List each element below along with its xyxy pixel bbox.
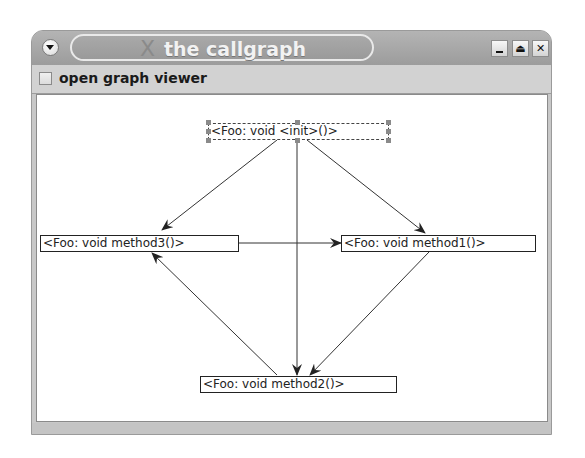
- minimize-button[interactable]: [491, 40, 508, 57]
- edge-method2-method3: [152, 253, 277, 375]
- toolbar: open graph viewer: [32, 65, 551, 94]
- node-label: <Foo: void <init>()>: [211, 124, 338, 138]
- window-title: the callgraph: [164, 38, 306, 60]
- edge-method1-method2: [310, 252, 429, 375]
- window-menu-button[interactable]: [42, 39, 59, 56]
- graph-canvas[interactable]: <Foo: void <init>()> <Foo: void method3(…: [36, 94, 548, 422]
- close-icon: ✕: [536, 42, 545, 55]
- selection-handle[interactable]: [206, 120, 211, 125]
- edge-init-method1: [307, 140, 425, 233]
- graph-node-method3[interactable]: <Foo: void method3()>: [40, 235, 239, 252]
- maximize-button[interactable]: ⏏: [512, 40, 529, 57]
- title-bar[interactable]: X the callgraph ⏏ ✕: [32, 31, 551, 65]
- title-pill: X the callgraph: [70, 34, 374, 61]
- node-label: <Foo: void method2()>: [203, 377, 345, 391]
- close-button[interactable]: ✕: [532, 40, 549, 57]
- open-graph-viewer-checkbox[interactable]: [39, 72, 52, 85]
- selection-handle[interactable]: [386, 120, 391, 125]
- status-bar: [32, 423, 551, 435]
- open-graph-viewer-label[interactable]: open graph viewer: [59, 70, 207, 86]
- graph-node-method1[interactable]: <Foo: void method1()>: [341, 235, 536, 252]
- selection-handle[interactable]: [386, 129, 391, 134]
- x-logo-icon: X: [140, 38, 155, 60]
- selection-handle[interactable]: [295, 120, 300, 125]
- eject-icon: ⏏: [515, 42, 525, 55]
- selection-handle[interactable]: [295, 138, 300, 143]
- edge-init-method3: [162, 140, 277, 230]
- node-label: <Foo: void method3()>: [43, 236, 185, 250]
- node-label: <Foo: void method1()>: [344, 236, 486, 250]
- selection-handle[interactable]: [386, 138, 391, 143]
- edges-layer: [37, 95, 549, 423]
- callgraph-window: X the callgraph ⏏ ✕ open graph viewer: [31, 30, 552, 435]
- selection-handle[interactable]: [206, 129, 211, 134]
- graph-node-method2[interactable]: <Foo: void method2()>: [200, 376, 397, 393]
- selection-handle[interactable]: [206, 138, 211, 143]
